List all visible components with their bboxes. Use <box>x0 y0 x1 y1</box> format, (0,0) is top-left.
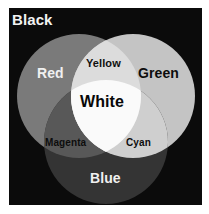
rgb-venn-diagram-figure: Black Red Green Blue Yellow Magenta Cyan… <box>0 0 209 214</box>
venn-diagram-svg <box>9 8 202 205</box>
diagram-plate-black-background: Black Red Green Blue Yellow Magenta Cyan… <box>9 8 202 205</box>
